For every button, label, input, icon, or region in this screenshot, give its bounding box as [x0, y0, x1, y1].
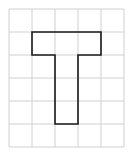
grid-lines	[9, 9, 124, 147]
grid-diagram	[0, 0, 128, 155]
